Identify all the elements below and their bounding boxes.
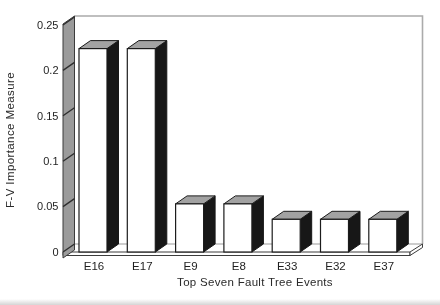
y-axis-band [63, 16, 75, 258]
floor-slab-right [410, 244, 423, 256]
bar-side-E16 [107, 41, 119, 252]
bar-front-E8 [224, 204, 252, 252]
column-E17 [127, 41, 167, 252]
y-tick-label-0: 0 [52, 246, 58, 258]
y-tick-label-0.15: 0.15 [37, 110, 58, 122]
category-label-E37: E37 [374, 260, 394, 272]
category-label-E17: E17 [132, 260, 152, 272]
column-E16 [79, 41, 119, 252]
bar-front-E37 [369, 219, 397, 252]
bar-front-E33 [272, 219, 300, 252]
bar-front-E17 [127, 49, 155, 252]
chart-canvas: 00.050.10.150.20.25E16E17E9E8E33E32E37 [0, 0, 440, 305]
y-axis-title: F-V Importance Measure [4, 30, 20, 250]
column-E33 [272, 211, 312, 252]
category-label-E16: E16 [84, 260, 104, 272]
bar-side-E9 [204, 196, 216, 252]
y-tick-label-0.2: 0.2 [43, 64, 58, 76]
bar-front-E16 [79, 49, 107, 252]
bar-side-E8 [252, 196, 264, 252]
bar-front-E32 [321, 219, 349, 252]
y-tick-label-0.25: 0.25 [37, 19, 58, 31]
scan-edge-artifact [0, 299, 440, 305]
category-label-E32: E32 [325, 260, 345, 272]
bar-side-E17 [155, 41, 167, 252]
column-E32 [321, 211, 361, 252]
fv-importance-3d-bar-chart-figure: 00.050.10.150.20.25E16E17E9E8E33E32E37 F… [0, 0, 440, 305]
category-label-E9: E9 [184, 260, 198, 272]
bar-front-E9 [176, 204, 204, 252]
y-tick-label-0.05: 0.05 [37, 200, 58, 212]
column-E8 [224, 196, 264, 252]
category-label-E33: E33 [277, 260, 297, 272]
x-axis-title: Top Seven Fault Tree Events [80, 276, 430, 288]
column-E9 [176, 196, 216, 252]
y-tick-label-0.1: 0.1 [43, 155, 58, 167]
column-E37 [369, 211, 409, 252]
category-label-E8: E8 [232, 260, 246, 272]
